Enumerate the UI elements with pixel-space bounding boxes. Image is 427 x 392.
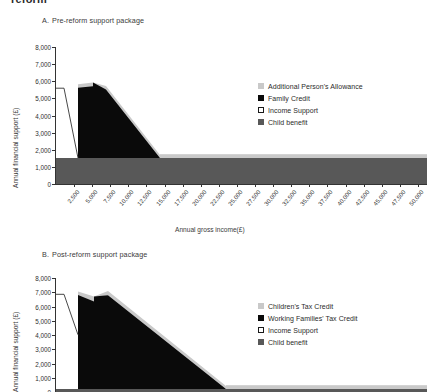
panel-b-plot-svg: [56, 278, 427, 392]
panel-post-reform: B.Post-reform support package Annual fin…: [0, 245, 427, 392]
series-income-support-b: [56, 294, 78, 335]
y-axis-tick-label: 1,000: [21, 374, 51, 381]
series-income-support: [56, 88, 78, 158]
y-axis-tick-label: 4,000: [21, 112, 51, 119]
series-working-families-tax-credit: [78, 295, 226, 389]
panel-b-plot: [56, 278, 427, 392]
legend-item[interactable]: Income Support: [258, 324, 358, 336]
legend-swatch-income-support: [258, 107, 264, 113]
y-axis-tick-label: 0: [21, 389, 51, 392]
legend-swatch-childrens-tax-credit: [258, 303, 264, 309]
legend-item[interactable]: Child benefit: [258, 336, 358, 348]
legend-item[interactable]: Working Families' Tax Credit: [258, 312, 358, 324]
panel-b-title-text: Post-reform support package: [52, 250, 147, 259]
legend-item[interactable]: Family Credit: [258, 92, 363, 104]
legend-label: Child benefit: [268, 339, 308, 346]
y-axis-tick-label: 5,000: [21, 317, 51, 324]
panel-a-ylabel: Annual financial support (£): [12, 108, 19, 188]
panel-a-plot-svg: [56, 47, 427, 184]
series-family-credit: [78, 83, 160, 159]
panel-a-title: A.Pre-reform support package: [42, 16, 144, 25]
y-axis-tick-label: 3,000: [21, 129, 51, 136]
series-apa-strip: [160, 154, 427, 158]
legend-swatch-child-benefit: [258, 119, 264, 125]
series-ctc-strip: [226, 385, 427, 389]
panel-a-x-axis: [55, 184, 427, 185]
panel-a-title-text: Pre-reform support package: [52, 16, 144, 25]
legend-item[interactable]: Additional Person's Allowance: [258, 80, 363, 92]
legend-swatch-family-credit: [258, 95, 264, 101]
y-axis-tick-label: 3,000: [21, 346, 51, 353]
panel-a-legend: Additional Person's Allowance Family Cre…: [258, 80, 363, 128]
y-axis-tick-label: 8,000: [21, 44, 51, 51]
y-axis-tick-label: 6,000: [21, 303, 51, 310]
legend-swatch-additional-persons-allowance: [258, 83, 264, 89]
legend-label: Children's Tax Credit: [268, 303, 333, 310]
legend-label: Working Families' Tax Credit: [268, 315, 358, 322]
legend-label: Family Credit: [268, 95, 310, 102]
legend-item[interactable]: Income Support: [258, 104, 363, 116]
legend-swatch-income-support: [258, 327, 264, 333]
panel-b-ylabel: Annual financial support (£): [12, 312, 19, 392]
panel-a-letter: A.: [42, 16, 49, 25]
y-axis-tick-label: 4,000: [21, 332, 51, 339]
legend-label: Additional Person's Allowance: [268, 83, 363, 90]
series-child-benefit: [56, 158, 427, 184]
panel-pre-reform: A.Pre-reform support package Annual fina…: [0, 0, 427, 236]
legend-item[interactable]: Children's Tax Credit: [258, 300, 358, 312]
y-axis-tick-label: 7,000: [21, 61, 51, 68]
y-axis-tick-label: 5,000: [21, 95, 51, 102]
y-axis-tick-label: 7,000: [21, 289, 51, 296]
y-axis-tick-label: 2,000: [21, 146, 51, 153]
y-axis-tick-label: 1,000: [21, 163, 51, 170]
y-axis-tick-label: 6,000: [21, 78, 51, 85]
legend-label: Income Support: [268, 327, 318, 334]
legend-label: Child benefit: [268, 119, 308, 126]
panel-b-letter: B.: [42, 250, 49, 259]
panel-a-xlabel: Annual gross income(£): [175, 226, 245, 233]
y-axis-tick-label: 0: [21, 181, 51, 188]
legend-item[interactable]: Child benefit: [258, 116, 363, 128]
legend-swatch-child-benefit: [258, 339, 264, 345]
panel-b-legend: Children's Tax Credit Working Families' …: [258, 300, 358, 348]
panel-a-plot: [56, 47, 427, 184]
panel-b-title: B.Post-reform support package: [42, 250, 147, 259]
figure-page: reform A.Pre-reform support package Annu…: [0, 0, 427, 392]
legend-label: Income Support: [268, 107, 318, 114]
legend-swatch-working-families-tax-credit: [258, 315, 264, 321]
y-axis-tick-label: 2,000: [21, 360, 51, 367]
y-axis-tick-label: 8,000: [21, 275, 51, 282]
